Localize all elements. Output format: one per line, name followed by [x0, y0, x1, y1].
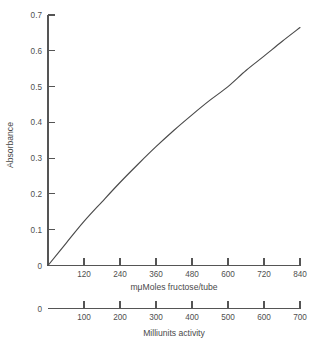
x-axis-secondary-tick-label: 200 — [113, 313, 127, 322]
x-axis-primary-tick-label: 120 — [77, 270, 91, 279]
absorbance-standard-curve-chart: Absorbance 00.10.20.30.40.50.60.7 120240… — [0, 0, 315, 349]
x-axis-primary-tick-label: 600 — [221, 270, 235, 279]
y-axis-tick-label: 0.2 — [31, 190, 43, 199]
x-axis-secondary-title: Milliunits activity — [143, 328, 205, 338]
x-axis-secondary-origin-label: 0 — [37, 305, 42, 314]
x-axis-secondary-tick-label: 400 — [185, 313, 199, 322]
y-axis-title: Absorbance — [5, 122, 15, 168]
y-axis-tick-label: 0 — [37, 262, 42, 271]
y-axis-tick-label: 0.1 — [31, 226, 43, 235]
x-axis-secondary-tick-label: 300 — [149, 313, 163, 322]
y-axis-tick-label: 0.7 — [31, 11, 43, 20]
y-axis-tick-label: 0.6 — [31, 47, 43, 56]
x-axis-primary-tick-label: 360 — [149, 270, 163, 279]
x-axis-secondary-tick-label: 100 — [77, 313, 91, 322]
chart-figure: Absorbance 00.10.20.30.40.50.60.7 120240… — [0, 0, 315, 349]
x-axis-secondary-tick-label: 700 — [293, 313, 307, 322]
chart-background — [0, 0, 315, 349]
y-axis-tick-label: 0.5 — [31, 83, 43, 92]
x-axis-primary-tick-label: 240 — [113, 270, 127, 279]
y-axis-tick-label: 0.3 — [31, 154, 43, 163]
x-axis-primary-tick-label: 840 — [293, 270, 307, 279]
y-axis-tick-label: 0.4 — [31, 118, 43, 127]
x-axis-secondary-tick-label: 600 — [257, 313, 271, 322]
x-axis-primary-tick-label: 720 — [257, 270, 271, 279]
x-axis-primary-title: mμMoles fructose/tube — [130, 282, 217, 292]
x-axis-secondary-tick-label: 500 — [221, 313, 235, 322]
x-axis-primary-tick-label: 480 — [185, 270, 199, 279]
